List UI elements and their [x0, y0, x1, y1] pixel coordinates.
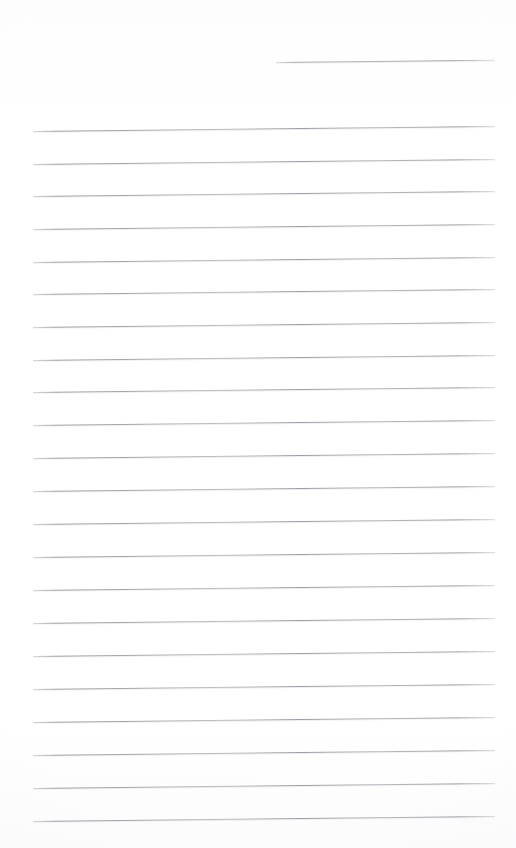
- ruled-line-4: [33, 224, 495, 230]
- ruled-line-10: [33, 420, 495, 426]
- ruled-line-17: [33, 651, 495, 657]
- ruled-line-16: [33, 618, 495, 624]
- date-line: [276, 60, 495, 63]
- ruled-line-8: [33, 355, 495, 361]
- ruled-line-21: [33, 783, 495, 789]
- ruled-line-5: [33, 257, 495, 263]
- ruled-line-1: [33, 126, 495, 132]
- ruled-line-2: [33, 159, 495, 165]
- ruled-line-22: [33, 816, 495, 822]
- ruled-line-11: [33, 453, 495, 459]
- ruled-line-18: [33, 684, 495, 690]
- ruled-line-7: [33, 322, 495, 328]
- ruled-line-3: [33, 191, 495, 197]
- lined-paper-page: [0, 0, 516, 848]
- ruled-line-13: [33, 519, 495, 525]
- ruled-line-12: [33, 486, 495, 492]
- ruled-line-20: [33, 750, 495, 756]
- ruled-line-6: [33, 289, 495, 295]
- ruled-line-19: [33, 717, 495, 723]
- ruled-line-9: [33, 387, 495, 393]
- ruled-line-15: [33, 585, 495, 591]
- ruled-line-14: [33, 552, 495, 558]
